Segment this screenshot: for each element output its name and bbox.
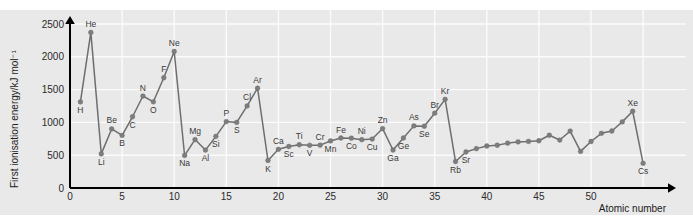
gridlines: [70, 10, 686, 188]
chart-screenshot: 05001000150020002500 0510152025303540455…: [0, 0, 693, 224]
x-tick-label: 50: [585, 191, 597, 202]
series-markers: [78, 30, 645, 166]
point-label-na: Na: [179, 158, 190, 168]
x-tick-label: 30: [377, 191, 389, 202]
y-axis-title: First ionisation energy/kJ mol⁻¹: [9, 50, 20, 188]
point-label-ne: Ne: [169, 38, 180, 48]
data-point: [182, 153, 187, 158]
x-tick-label: 0: [67, 191, 73, 202]
data-point: [599, 131, 604, 136]
point-label-cs: Cs: [638, 166, 648, 176]
data-point: [213, 134, 218, 139]
x-tick-label: 40: [481, 191, 493, 202]
data-point: [161, 75, 166, 80]
x-tick-label: 25: [325, 191, 337, 202]
point-label-ni: Ni: [358, 126, 366, 136]
point-label-kr: Kr: [441, 86, 450, 96]
data-point: [443, 97, 448, 102]
data-point: [224, 119, 229, 124]
data-point: [245, 104, 250, 109]
data-point: [359, 137, 364, 142]
point-label-sc: Sc: [284, 149, 295, 159]
data-point: [557, 138, 562, 143]
y-tick-label: 2000: [42, 51, 65, 62]
x-tick-label: 35: [429, 191, 441, 202]
point-label-rb: Rb: [450, 165, 461, 175]
point-label-k: K: [265, 164, 271, 174]
chart-svg: 05001000150020002500 0510152025303540455…: [0, 0, 693, 224]
x-axis-title: Atomic number: [599, 203, 667, 214]
data-point: [589, 139, 594, 144]
point-label-be: Be: [106, 115, 117, 125]
data-point: [297, 142, 302, 147]
y-tick-label: 500: [47, 150, 64, 161]
point-label-cr: Cr: [316, 132, 325, 142]
data-point: [641, 161, 646, 166]
point-label-al: Al: [202, 153, 210, 163]
x-tick-label: 5: [119, 191, 125, 202]
data-point: [620, 119, 625, 124]
ionisation-energy-chart: 05001000150020002500 0510152025303540455…: [0, 0, 693, 224]
point-label-s: S: [234, 125, 240, 135]
x-axis-tick-labels: 05101520253035404550: [67, 191, 597, 202]
data-point: [547, 133, 552, 138]
point-label-ca: Ca: [273, 136, 284, 146]
data-point: [609, 129, 614, 134]
point-label-h: H: [77, 105, 83, 115]
data-point: [484, 144, 489, 149]
data-point: [537, 138, 542, 143]
point-label-fe: Fe: [336, 125, 346, 135]
point-label-mn: Mn: [325, 144, 337, 154]
point-label-ga: Ga: [387, 153, 399, 163]
point-label-b: B: [119, 138, 125, 148]
data-point: [505, 141, 510, 146]
data-point: [339, 136, 344, 141]
data-point: [234, 120, 239, 125]
data-point: [453, 159, 458, 164]
point-label-co: Co: [346, 141, 357, 151]
data-point: [109, 127, 114, 132]
x-tick-label: 10: [169, 191, 181, 202]
data-point: [318, 143, 323, 148]
data-point: [516, 140, 521, 145]
data-point: [464, 150, 469, 155]
data-point: [266, 158, 271, 163]
data-point: [130, 114, 135, 119]
point-label-f: F: [161, 64, 166, 74]
data-point: [391, 148, 396, 153]
point-label-v: V: [307, 148, 313, 158]
point-label-o: O: [150, 105, 157, 115]
data-point: [99, 151, 104, 156]
data-point: [276, 147, 281, 152]
data-point: [78, 100, 83, 105]
y-axis-arrowhead: [65, 16, 75, 24]
data-point: [370, 137, 375, 142]
data-point: [495, 143, 500, 148]
data-point: [120, 133, 125, 138]
series-line-first-ionisation-energy: [80, 32, 643, 163]
data-point: [422, 124, 427, 129]
x-tick-label: 15: [221, 191, 233, 202]
y-axis-tick-labels: 05001000150020002500: [42, 19, 65, 194]
point-label-c: C: [129, 120, 135, 130]
data-point: [172, 49, 177, 54]
point-label-ti: Ti: [296, 131, 303, 141]
point-label-cu: Cu: [367, 142, 378, 152]
point-label-xe: Xe: [627, 98, 638, 108]
data-point: [630, 109, 635, 114]
data-point: [193, 137, 198, 142]
point-label-as: As: [409, 112, 419, 122]
y-tick-label: 1500: [42, 84, 65, 95]
point-label-li: Li: [98, 157, 105, 167]
data-point: [307, 143, 312, 148]
data-point: [255, 86, 260, 91]
data-point: [286, 144, 291, 149]
point-label-sr: Sr: [462, 155, 471, 165]
data-point: [349, 136, 354, 141]
point-label-mg: Mg: [189, 126, 201, 136]
point-label-cl: Cl: [243, 92, 251, 102]
axes: [65, 16, 676, 193]
data-point: [401, 136, 406, 141]
data-point: [151, 99, 156, 104]
point-label-br: Br: [430, 100, 439, 110]
